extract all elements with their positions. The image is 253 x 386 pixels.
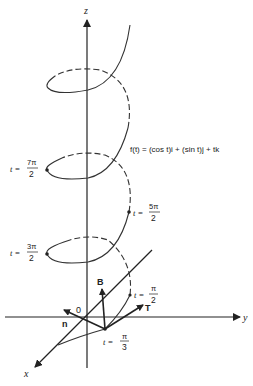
svg-text:7π: 7π (27, 158, 36, 167)
svg-text:2: 2 (29, 169, 34, 179)
svg-text:3: 3 (122, 342, 127, 352)
normal-vector (64, 310, 105, 329)
helix-curve (47, 25, 131, 345)
point-t-7pi-2 (45, 168, 49, 172)
helix-equation: f(t) = (cos t)i + (sin t)j + tk (130, 145, 220, 154)
svg-text:t =: t = (103, 337, 113, 347)
normal-label: n (62, 319, 68, 329)
label-t-3pi-2: t = 3π 2 (10, 242, 38, 263)
point-t-3pi-2 (45, 252, 49, 256)
svg-text:t =: t = (134, 290, 144, 300)
label-t-pi-2: t = π 2 (134, 284, 158, 305)
z-axis-label: z (83, 5, 88, 16)
svg-text:π: π (122, 332, 127, 341)
svg-text:π: π (151, 284, 156, 293)
helix-figure: z y x 0 B T n f(t) = (cos t)i + (sin t)j… (0, 0, 253, 386)
point-t-5pi-2 (127, 210, 131, 214)
label-t-pi-3: t = π 3 (103, 332, 129, 352)
svg-text:t =: t = (10, 248, 20, 258)
label-t-5pi-2: t = 5π 2 (133, 202, 160, 223)
point-t-pi-2 (128, 293, 131, 296)
binormal-label: B (97, 277, 104, 287)
svg-text:2: 2 (151, 213, 156, 223)
svg-text:2: 2 (151, 295, 156, 305)
x-axis-label: x (23, 368, 29, 379)
svg-text:5π: 5π (149, 202, 158, 211)
svg-text:t =: t = (10, 164, 20, 174)
svg-text:3π: 3π (27, 242, 36, 251)
y-axis-label: y (242, 312, 248, 323)
label-t-7pi-2: t = 7π 2 (10, 158, 38, 179)
binormal-vector (102, 289, 105, 329)
origin-label: 0 (76, 305, 81, 315)
svg-text:2: 2 (29, 253, 34, 263)
svg-text:t =: t = (133, 208, 143, 218)
x-axis (35, 250, 152, 367)
